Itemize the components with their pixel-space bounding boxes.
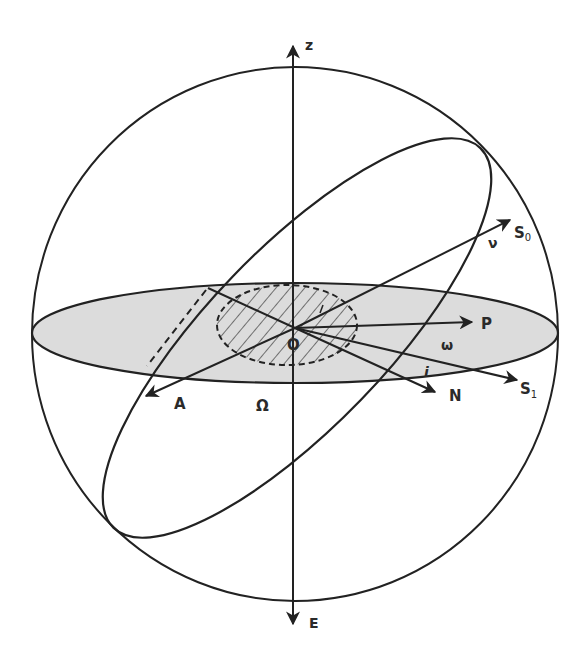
label-s0-sub: 0 bbox=[525, 232, 531, 243]
label-inclination: i bbox=[424, 364, 429, 380]
label-s0: S0 bbox=[514, 224, 531, 243]
label-origin: O bbox=[287, 336, 300, 354]
orbital-elements-diagram: z E O S0 S1 P N A Ω ω ν i bbox=[0, 0, 582, 657]
label-z: z bbox=[305, 37, 313, 53]
label-omega-pericenter: ω bbox=[441, 337, 453, 353]
label-s0-main: S bbox=[514, 224, 525, 242]
label-p: P bbox=[481, 315, 492, 333]
label-s1-sub: 1 bbox=[531, 389, 537, 400]
label-e: E bbox=[309, 615, 319, 631]
label-s1: S1 bbox=[520, 380, 537, 400]
label-nu: ν bbox=[488, 235, 498, 251]
label-s1-main: S bbox=[520, 380, 531, 398]
label-n: N bbox=[449, 387, 462, 405]
label-omega-node: Ω bbox=[256, 397, 269, 415]
label-a: A bbox=[174, 395, 186, 413]
